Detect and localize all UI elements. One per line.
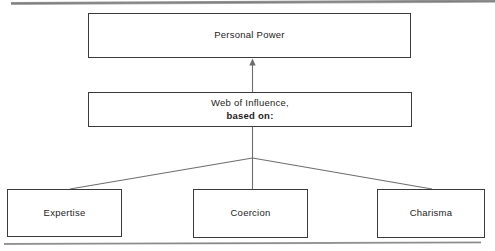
node-web-of-influence-label-line-2: based on: (226, 110, 273, 123)
node-web-of-influence: Web of Influence, based on: (88, 92, 412, 127)
node-charisma-label: Charisma (410, 207, 453, 220)
page-rule-bottom (4, 242, 481, 245)
node-expertise: Expertise (7, 189, 122, 237)
node-coercion: Coercion (193, 189, 308, 238)
node-personal-power: Personal Power (88, 13, 411, 58)
page-rule-top (11, 0, 495, 5)
branch-to-expertise-line (70, 158, 253, 189)
node-coercion-label: Coercion (230, 207, 270, 220)
node-web-of-influence-label-line-1: Web of Influence, (211, 97, 289, 110)
diagram-canvas: Personal Power Web of Influence, based o… (0, 0, 495, 251)
branch-to-charisma-line (253, 158, 433, 189)
node-expertise-label: Expertise (44, 207, 86, 220)
node-charisma: Charisma (377, 189, 485, 238)
node-personal-power-label: Personal Power (214, 29, 285, 42)
arrow-up-to-personal-power-head (249, 59, 255, 66)
